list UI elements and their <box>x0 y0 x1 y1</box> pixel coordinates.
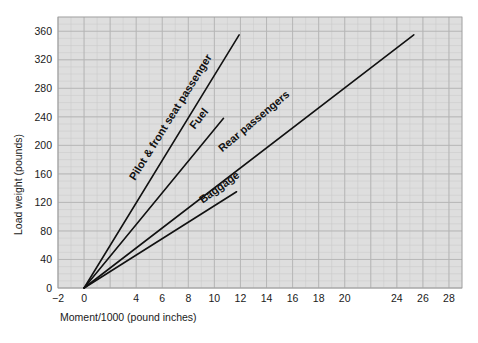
x-tick-label: 14 <box>261 292 273 304</box>
y-tick-label: 320 <box>34 53 52 65</box>
y-tick-label: 240 <box>34 111 52 123</box>
y-tick-label: 360 <box>34 25 52 37</box>
x-tick-label: 24 <box>391 292 403 304</box>
loading-graph-figure: Pilot & front seat passengerFuelRear pas… <box>0 0 478 343</box>
y-axis-title: Load weight (pounds) <box>12 134 24 235</box>
x-axis-tick-labels: −20468101214161820242628 <box>52 292 455 304</box>
x-tick-label: 10 <box>209 292 221 304</box>
x-tick-label: 12 <box>235 292 247 304</box>
x-tick-label: 26 <box>417 292 429 304</box>
x-tick-label: 18 <box>313 292 325 304</box>
y-tick-label: 280 <box>34 82 52 94</box>
chart-canvas: Pilot & front seat passengerFuelRear pas… <box>0 0 478 343</box>
x-tick-label: 8 <box>185 292 191 304</box>
y-axis-tick-labels: 04080120160200240280320360 <box>34 25 52 294</box>
x-tick-label: 0 <box>81 292 87 304</box>
x-tick-label: 20 <box>339 292 351 304</box>
x-axis-title: Moment/1000 (pound inches) <box>60 311 197 323</box>
x-tick-label: 16 <box>287 292 299 304</box>
y-tick-label: 160 <box>34 168 52 180</box>
y-tick-label: 200 <box>34 139 52 151</box>
x-tick-label: −2 <box>52 292 64 304</box>
x-tick-label: 6 <box>159 292 165 304</box>
x-tick-label: 4 <box>133 292 139 304</box>
y-tick-label: 0 <box>46 282 52 294</box>
y-tick-label: 120 <box>34 196 52 208</box>
y-tick-label: 80 <box>40 225 52 237</box>
x-tick-label: 28 <box>443 292 455 304</box>
y-tick-label: 40 <box>40 253 52 265</box>
